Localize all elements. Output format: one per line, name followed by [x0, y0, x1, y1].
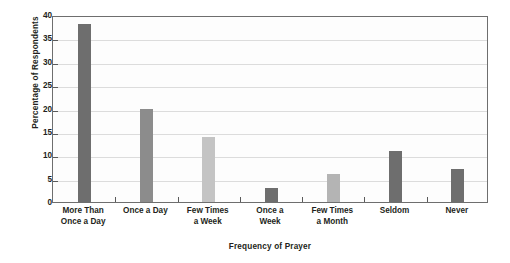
- x-tick-label-line: Week: [234, 217, 306, 228]
- y-tick-mark: [53, 157, 58, 158]
- x-tick-label: Seldom: [359, 206, 431, 217]
- x-tick-mark: [178, 197, 179, 202]
- x-tick-label: Once a Day: [109, 206, 181, 217]
- x-tick-label: Once aWeek: [234, 206, 306, 227]
- x-tick-mark: [302, 197, 303, 202]
- bar: [265, 188, 278, 202]
- y-tick-mark: [53, 134, 58, 135]
- bar: [140, 109, 153, 203]
- y-tick-label: 15: [30, 129, 52, 137]
- x-tick-label-line: Once a Day: [109, 206, 181, 217]
- y-tick-mark: [53, 181, 58, 182]
- bar: [389, 151, 402, 202]
- x-tick-label-line: More Than: [47, 206, 119, 217]
- x-tick-mark: [364, 197, 365, 202]
- y-tick-mark: [53, 87, 58, 88]
- x-tick-label-line: Once a: [234, 206, 306, 217]
- x-tick-label-line: Few Times: [172, 206, 244, 217]
- y-tick-label: 10: [30, 152, 52, 160]
- y-tick-label: 35: [30, 35, 52, 43]
- y-tick-mark: [53, 64, 58, 65]
- y-tick-label: 40: [30, 12, 52, 20]
- y-tick-mark: [53, 111, 58, 112]
- x-tick-label-line: a Month: [296, 217, 368, 228]
- y-tick-label: 30: [30, 59, 52, 67]
- bar: [78, 24, 91, 202]
- x-tick-label-line: a Week: [172, 217, 244, 228]
- x-tick-label: Never: [421, 206, 493, 217]
- gridline: [53, 134, 487, 135]
- bar: [451, 169, 464, 202]
- gridline: [53, 111, 487, 112]
- bar: [327, 174, 340, 202]
- x-tick-mark: [115, 197, 116, 202]
- x-tick-label: Few Timesa Week: [172, 206, 244, 227]
- plot-area: [52, 16, 488, 203]
- gridline: [53, 87, 487, 88]
- x-tick-label-line: Seldom: [359, 206, 431, 217]
- x-tick-mark: [240, 197, 241, 202]
- gridline: [53, 181, 487, 182]
- bar-chart-figure: Percentage of Respondents 05101520253035…: [0, 0, 510, 263]
- x-tick-label-line: Few Times: [296, 206, 368, 217]
- x-axis-title: Frequency of Prayer: [52, 242, 488, 251]
- x-tick-label: Few Timesa Month: [296, 206, 368, 227]
- gridline: [53, 157, 487, 158]
- y-axis-tick-labels: 0510152025303540: [30, 16, 52, 203]
- gridline: [53, 40, 487, 41]
- x-tick-label-line: Never: [421, 206, 493, 217]
- y-tick-label: 25: [30, 82, 52, 90]
- gridline: [53, 64, 487, 65]
- x-tick-label: More ThanOnce a Day: [47, 206, 119, 227]
- x-tick-label-line: Once a Day: [47, 217, 119, 228]
- x-axis-tick-labels: More ThanOnce a DayOnce a DayFew Timesa …: [52, 206, 488, 240]
- bar: [202, 137, 215, 202]
- y-tick-mark: [53, 40, 58, 41]
- y-tick-label: 20: [30, 105, 52, 113]
- y-tick-label: 5: [30, 176, 52, 184]
- x-tick-mark: [427, 197, 428, 202]
